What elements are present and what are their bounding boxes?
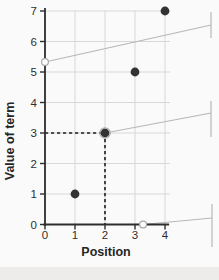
y-tick-label: 0 bbox=[31, 219, 37, 231]
sequence-scatter-plot: 0123456701234 Position Value of term bbox=[0, 0, 219, 280]
callout-leader-line bbox=[45, 25, 211, 62]
x-axis-title: Position bbox=[81, 245, 130, 259]
grid-layer bbox=[45, 11, 170, 225]
y-axis-title: Value of term bbox=[3, 102, 17, 181]
x-tick-label: 3 bbox=[132, 229, 138, 241]
y-tick-label: 2 bbox=[31, 158, 37, 170]
x-tick-label: 0 bbox=[42, 229, 48, 241]
y-tick-label: 7 bbox=[31, 5, 37, 17]
data-point bbox=[131, 68, 140, 77]
callout-layer bbox=[45, 12, 212, 247]
open-circle-marker bbox=[140, 221, 147, 228]
x-tick-label: 4 bbox=[162, 229, 169, 241]
data-point bbox=[101, 129, 110, 138]
y-tick-label: 4 bbox=[31, 97, 38, 109]
tick-labels: 0123456701234 bbox=[31, 5, 169, 241]
textbook-figure: 0123456701234 Position Value of term bbox=[0, 0, 219, 280]
y-tick-label: 3 bbox=[31, 127, 37, 139]
open-circle-marker bbox=[42, 59, 49, 66]
callout-leader-line bbox=[143, 218, 212, 225]
y-tick-label: 1 bbox=[31, 188, 37, 200]
x-tick-label: 2 bbox=[102, 229, 108, 241]
callout-leader-line bbox=[105, 113, 211, 133]
y-tick-label: 6 bbox=[31, 36, 37, 48]
y-tick-label: 5 bbox=[31, 66, 37, 78]
x-tick-label: 1 bbox=[72, 229, 78, 241]
page-background-edge bbox=[0, 267, 219, 280]
data-point bbox=[71, 190, 80, 199]
data-point bbox=[161, 7, 170, 16]
